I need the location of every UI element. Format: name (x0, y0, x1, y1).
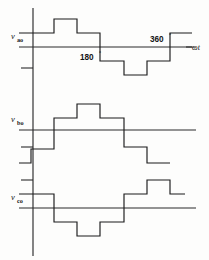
trace-vbo (19, 104, 170, 163)
figure-container: v ao 180 ° 360 ° ωt v bo v co (0, 0, 209, 260)
trace-label-vao-main: v (11, 31, 15, 41)
x-axis-label-omega-t: ωt (192, 43, 201, 52)
x-tick-label-180: 180 (80, 53, 94, 62)
trace-label-vbo-sub: bo (17, 119, 24, 126)
trace-label-vao-sub: ao (17, 36, 23, 43)
trace-label-vco-main: v (11, 192, 15, 202)
trace-label-vbo-main: v (11, 114, 15, 124)
degree-symbol-360: ° (169, 32, 171, 38)
x-tick-label-360: 360 (150, 35, 164, 44)
trace-label-vco-sub: co (17, 197, 23, 204)
waveform-plot: v ao 180 ° 360 ° ωt v bo v co (0, 0, 209, 260)
degree-symbol-180: ° (99, 50, 101, 56)
